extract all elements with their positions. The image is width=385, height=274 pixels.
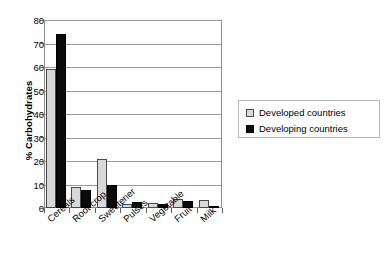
x-tick-label: Cereals: [45, 194, 77, 224]
legend-item-developed: Developed countries: [246, 105, 379, 120]
legend: Developed countries Developing countries: [238, 100, 380, 138]
legend-item-developing: Developing countries: [246, 121, 379, 136]
light-gray-swatch-icon: [246, 109, 254, 117]
x-tick-label: Milk: [198, 205, 218, 224]
x-tick-label: Fruit: [172, 203, 193, 224]
bar-chart: % Carbohydrates 01020304050607080 Cereal…: [0, 0, 385, 274]
legend-label-developed: Developed countries: [259, 107, 346, 118]
legend-label-developing: Developing countries: [259, 123, 348, 134]
black-swatch-icon: [246, 125, 254, 133]
